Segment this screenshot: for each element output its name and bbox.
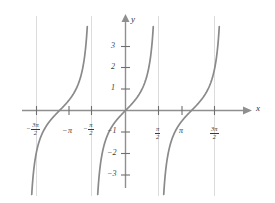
- x-axis-label: x: [256, 103, 260, 113]
- x-tick-label-pos-3pi-2-den: 2: [210, 133, 219, 141]
- x-tick-label-pos-3pi-2: 3π 2: [210, 117, 219, 140]
- x-tick-label-neg-pi-sign: −: [62, 126, 67, 135]
- x-tick-label-pos-pi: π: [179, 119, 183, 137]
- x-tick-label-neg-3pi-2-sign: −: [26, 125, 31, 133]
- x-tick-label-pos-3pi-2-num: 3π: [210, 126, 219, 133]
- x-tick-label-neg-pi: − π: [62, 119, 72, 137]
- x-tick-label-neg-pi-2-num: π: [88, 122, 93, 129]
- x-tick-label-neg-pi-2-sign: −: [83, 125, 88, 133]
- x-tick-label-neg-3pi-2-num: 3π: [31, 122, 40, 129]
- y-axis-arrowhead: [122, 14, 130, 22]
- y-axis: [122, 14, 130, 188]
- y-tick-label-3: 3: [111, 41, 115, 50]
- y-tick-label-neg-1: −1: [107, 126, 116, 135]
- y-axis-label: y: [131, 14, 135, 24]
- x-tick-label-neg-pi-2: − π 2: [83, 117, 94, 136]
- tangent-function-graph: y x 3 2 1 −1 −2 −3 − 3π 2 − π − π 2: [0, 0, 275, 203]
- x-tick-label-neg-3pi-2: − 3π 2: [26, 117, 40, 136]
- x-tick-label-neg-3pi-2-den: 2: [31, 129, 40, 137]
- x-tick-label-pos-pi-2-den: 2: [155, 133, 160, 141]
- plot-canvas: [0, 0, 275, 203]
- y-tick-label-neg-3: −3: [107, 169, 116, 178]
- x-tick-label-neg-pi-2-den: 2: [88, 129, 93, 137]
- x-tick-label-pos-pi-num: π: [179, 126, 183, 135]
- y-tick-label-neg-2: −2: [107, 148, 116, 157]
- y-tick-label-1: 1: [111, 83, 115, 92]
- y-tick-label-2: 2: [111, 62, 115, 71]
- x-tick-label-pos-pi-2: π 2: [155, 117, 160, 140]
- x-axis-arrowhead: [243, 107, 252, 115]
- x-tick-label-neg-pi-num: π: [68, 126, 72, 135]
